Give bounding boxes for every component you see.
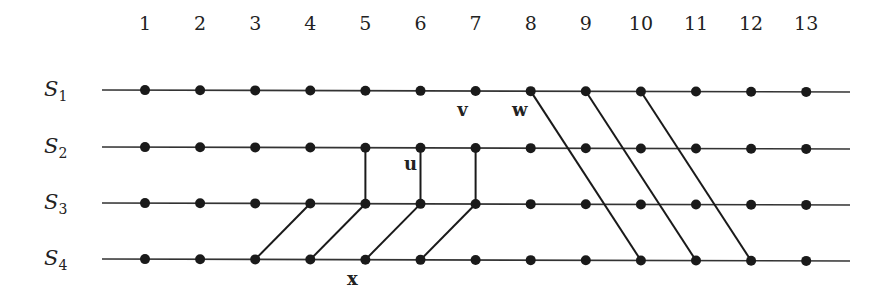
event-node	[471, 199, 481, 209]
message-edge	[421, 204, 476, 260]
process-label-s2: S2	[44, 134, 67, 161]
event-node	[526, 143, 536, 153]
event-node	[250, 198, 260, 208]
message-edge	[365, 204, 420, 260]
column-label: 13	[794, 12, 818, 34]
event-node	[195, 254, 205, 264]
event-node	[250, 85, 260, 95]
event-node	[636, 143, 646, 153]
event-node	[416, 143, 426, 153]
column-label: 1	[139, 12, 151, 34]
event-node	[416, 86, 426, 96]
event-label-w: w	[511, 99, 528, 120]
column-label: 3	[249, 12, 261, 34]
column-label: 11	[684, 12, 708, 34]
event-node	[746, 200, 756, 210]
event-node	[360, 143, 370, 153]
column-label: 4	[304, 12, 316, 34]
event-label-u: u	[404, 153, 417, 174]
event-node	[250, 142, 260, 152]
event-node	[636, 255, 646, 265]
event-node	[195, 85, 205, 95]
event-node	[140, 198, 150, 208]
event-node	[581, 255, 591, 265]
event-node	[140, 142, 150, 152]
event-node	[305, 255, 315, 265]
event-label-v: v	[456, 99, 468, 120]
column-label: 10	[629, 12, 653, 34]
event-node	[581, 199, 591, 209]
event-node	[416, 199, 426, 209]
process-label-s3: S3	[44, 190, 67, 217]
event-node	[471, 143, 481, 153]
event-label-x: x	[347, 268, 358, 289]
column-label: 7	[470, 12, 482, 34]
event-node	[581, 143, 591, 153]
event-node	[416, 255, 426, 265]
event-node	[140, 85, 150, 95]
event-node	[636, 199, 646, 209]
event-node	[526, 255, 536, 265]
column-labels: 12345678910111213	[139, 12, 818, 34]
event-node	[691, 256, 701, 266]
event-node	[526, 86, 536, 96]
event-node	[691, 87, 701, 97]
message-edge	[255, 204, 310, 260]
column-label: 12	[739, 12, 763, 34]
event-node	[691, 200, 701, 210]
event-node	[195, 142, 205, 152]
message-edge	[586, 91, 696, 260]
event-node	[636, 86, 646, 96]
column-label: 8	[525, 12, 537, 34]
event-node	[801, 87, 811, 97]
column-label: 9	[580, 12, 592, 34]
event-node	[305, 143, 315, 153]
event-node	[801, 200, 811, 210]
event-node	[746, 87, 756, 97]
column-label: 6	[414, 12, 426, 34]
event-node	[801, 256, 811, 266]
event-node	[305, 86, 315, 96]
message-edge	[310, 204, 365, 260]
message-edge	[641, 91, 751, 260]
row-labels: S1S2S3S4	[44, 77, 67, 273]
event-node	[195, 198, 205, 208]
event-node	[801, 144, 811, 154]
event-node	[360, 255, 370, 265]
event-node	[471, 255, 481, 265]
message-edge	[531, 91, 641, 260]
event-node	[250, 254, 260, 264]
event-node	[691, 144, 701, 154]
message-edges	[255, 91, 751, 261]
event-node	[746, 256, 756, 266]
event-node	[471, 86, 481, 96]
process-label-s4: S4	[44, 246, 67, 273]
event-node	[526, 199, 536, 209]
column-label: 2	[194, 12, 206, 34]
process-label-s1: S1	[44, 77, 67, 104]
event-node	[581, 86, 591, 96]
event-node	[140, 254, 150, 264]
event-node	[360, 86, 370, 96]
process-diagram: 12345678910111213 S1S2S3S4 vwux	[0, 0, 894, 304]
event-node	[360, 199, 370, 209]
column-label: 5	[359, 12, 371, 34]
event-node	[746, 144, 756, 154]
event-node	[305, 199, 315, 209]
